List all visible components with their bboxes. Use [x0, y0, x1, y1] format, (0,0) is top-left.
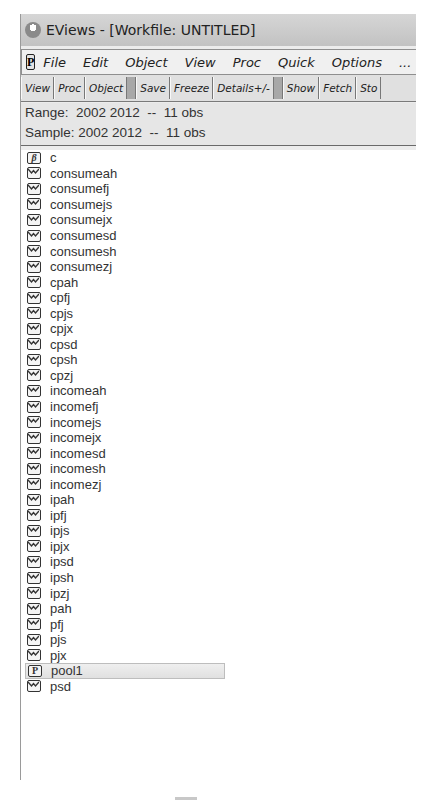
series-icon: [27, 276, 41, 288]
menu-proc[interactable]: Proc: [233, 55, 261, 70]
menu-edit[interactable]: Edit: [83, 55, 108, 70]
range-text[interactable]: Range: 2002 2012 -- 11 obs: [25, 103, 416, 123]
toolbar-separator: [127, 77, 136, 99]
series-icon: [27, 338, 41, 350]
object-name: pjs: [50, 632, 67, 647]
list-item[interactable]: consumejx: [27, 212, 416, 228]
list-item[interactable]: incomejs: [27, 414, 416, 430]
menu-quick[interactable]: Quick: [278, 55, 315, 70]
list-item[interactable]: incomeah: [27, 383, 416, 399]
list-item[interactable]: cpsh: [27, 352, 416, 368]
series-icon: [27, 354, 41, 366]
list-item[interactable]: consumeah: [27, 166, 416, 182]
list-item[interactable]: ipsh: [27, 570, 416, 586]
object-name: incomefj: [50, 399, 98, 414]
list-item[interactable]: consumefj: [27, 181, 416, 197]
object-name: cpjs: [50, 306, 73, 321]
list-item[interactable]: cpjx: [27, 321, 416, 337]
show-button[interactable]: Show: [283, 77, 319, 99]
workfile-toolbar: View Proc Object Save Freeze Details+/- …: [21, 75, 416, 102]
object-name: consumejx: [50, 212, 112, 227]
list-item[interactable]: βc: [27, 150, 416, 166]
object-name: cpzj: [50, 368, 73, 383]
series-icon: [27, 385, 41, 397]
series-icon: [27, 634, 41, 646]
object-name: consumeah: [50, 166, 117, 181]
object-list[interactable]: βcconsumeahconsumefjconsumejsconsumejxco…: [21, 150, 416, 780]
series-icon: [27, 618, 41, 630]
object-name: pah: [50, 601, 72, 616]
object-name: incomesh: [50, 461, 106, 476]
list-item[interactable]: cpzj: [27, 368, 416, 384]
series-icon: [27, 416, 41, 428]
series-icon: [27, 525, 41, 537]
series-icon: [27, 649, 41, 661]
eviews-app-icon: [25, 22, 41, 38]
list-item[interactable]: ipzj: [27, 585, 416, 601]
list-item[interactable]: pjx: [27, 648, 416, 664]
series-icon: [27, 447, 41, 459]
series-icon: [27, 540, 41, 552]
details-button[interactable]: Details+/-: [213, 77, 274, 99]
eviews-window: EViews - [Workfile: UNTITLED] P File Edi…: [20, 14, 416, 780]
series-icon: [27, 478, 41, 490]
list-item[interactable]: ipfj: [27, 508, 416, 524]
menu-more[interactable]: ...: [399, 55, 411, 70]
menu-object[interactable]: Object: [125, 55, 167, 70]
series-icon: [27, 245, 41, 257]
taskbar-mark: [175, 797, 197, 800]
view-button[interactable]: View: [21, 77, 54, 99]
list-item[interactable]: consumesd: [27, 228, 416, 244]
list-item[interactable]: cpah: [27, 274, 416, 290]
object-name: ipjx: [50, 539, 70, 554]
object-name: ipsd: [50, 554, 74, 569]
freeze-button[interactable]: Freeze: [170, 77, 213, 99]
list-item[interactable]: ipjs: [27, 523, 416, 539]
list-item[interactable]: ipsd: [27, 554, 416, 570]
object-name: consumezj: [50, 259, 112, 274]
list-item[interactable]: cpjs: [27, 305, 416, 321]
object-name: cpjx: [50, 321, 73, 336]
save-button[interactable]: Save: [136, 77, 170, 99]
list-item[interactable]: consumezj: [27, 259, 416, 275]
list-item[interactable]: incomezj: [27, 476, 416, 492]
series-icon: [27, 261, 41, 273]
window-title: EViews - [Workfile: UNTITLED]: [46, 22, 256, 38]
list-item[interactable]: consumejs: [27, 197, 416, 213]
list-item[interactable]: incomefj: [27, 399, 416, 415]
object-name: c: [50, 150, 57, 165]
list-item[interactable]: cpfj: [27, 290, 416, 306]
sample-text[interactable]: Sample: 2002 2012 -- 11 obs: [25, 123, 416, 143]
list-item[interactable]: psd: [27, 679, 416, 695]
menu-options[interactable]: Options: [332, 55, 382, 70]
list-item[interactable]: consumesh: [27, 243, 416, 259]
list-item[interactable]: ipah: [27, 492, 416, 508]
object-name: cpfj: [50, 290, 70, 305]
menu-file[interactable]: File: [43, 55, 66, 70]
series-icon: [27, 603, 41, 615]
object-name: incomesd: [50, 446, 106, 461]
series-icon: [27, 572, 41, 584]
list-item[interactable]: ipjx: [27, 539, 416, 555]
p-icon[interactable]: P: [26, 54, 35, 70]
list-item[interactable]: pjs: [27, 632, 416, 648]
list-item[interactable]: Ppool1: [25, 663, 225, 679]
list-item[interactable]: pah: [27, 601, 416, 617]
title-bar[interactable]: EViews - [Workfile: UNTITLED]: [21, 14, 416, 46]
object-name: cpsh: [50, 352, 77, 367]
list-item[interactable]: incomesd: [27, 445, 416, 461]
fetch-button[interactable]: Fetch: [319, 77, 356, 99]
list-item[interactable]: pfj: [27, 616, 416, 632]
list-item[interactable]: cpsd: [27, 337, 416, 353]
store-button[interactable]: Sto: [356, 77, 381, 99]
object-name: pool1: [51, 663, 83, 678]
menu-view[interactable]: View: [185, 55, 216, 70]
object-button[interactable]: Object: [85, 77, 127, 99]
object-name: ipsh: [50, 570, 74, 585]
list-item[interactable]: incomesh: [27, 461, 416, 477]
series-icon: [27, 307, 41, 319]
list-item[interactable]: incomejx: [27, 430, 416, 446]
proc-button[interactable]: Proc: [54, 77, 85, 99]
object-name: incomejx: [50, 430, 101, 445]
object-name: pfj: [50, 617, 64, 632]
